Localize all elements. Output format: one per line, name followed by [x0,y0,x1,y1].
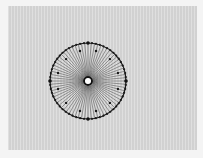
rim-dot [79,117,81,119]
rim-dot [54,99,56,101]
rim-dot [109,49,111,51]
rim-dot [51,92,53,94]
rim-dot [71,115,73,117]
rim-dot [115,105,117,107]
cardinal-marker [124,79,128,83]
rim-dot [75,116,77,118]
rim-dot [115,54,117,56]
rim-dot [118,102,120,104]
rim-dot [50,72,52,74]
inner-dot [117,72,119,74]
inner-dot [57,72,59,74]
rim-dot [120,99,122,101]
spoke [91,50,110,77]
spoke [91,85,110,112]
rim-dot [95,43,97,45]
rim-dot [83,42,85,44]
rim-dot [61,108,63,110]
rim-dot [61,52,63,54]
spoked-wheel [0,0,203,158]
spoke [57,59,84,78]
rim-dot [125,84,127,86]
cardinal-marker [48,79,52,83]
rim-dot [106,47,108,49]
rim-dot [91,42,93,44]
spoke [66,85,85,112]
rim-dot [102,115,104,117]
spoke [92,59,119,78]
rim-dot [59,54,61,56]
inner-dot [109,102,111,104]
hub-center [86,79,91,84]
inner-dot [79,110,81,112]
rim-dot [99,116,101,118]
rim-dot [52,64,54,66]
rim-dot [122,64,124,66]
rim-dot [112,52,114,54]
inner-dot [65,102,67,104]
rim-dot [125,76,127,78]
rim-dot [75,44,77,46]
rim-dot [68,113,70,115]
rim-dot [71,45,73,47]
rim-dot [50,88,52,90]
spoke [66,50,85,77]
spoke [92,84,119,103]
spoke [57,84,84,103]
rim-dot [95,117,97,119]
inner-dot [65,58,67,60]
inner-dot [117,88,119,90]
rim-dot [59,105,61,107]
rim-dot [122,95,124,97]
rim-dot [109,111,111,113]
cardinal-marker [86,117,90,121]
inner-dot [95,50,97,52]
rim-dot [79,43,81,45]
rim-dot [52,95,54,97]
rim-dot [51,68,53,70]
rim-dot [124,72,126,74]
rim-dot [56,102,58,104]
rim-dot [68,47,70,49]
cardinal-marker [86,41,90,45]
inner-dot [109,58,111,60]
inner-dot [95,110,97,112]
rim-dot [124,88,126,90]
rim-dot [49,84,51,86]
rim-dot [102,45,104,47]
rim-dot [123,68,125,70]
rim-dot [65,49,67,51]
rim-dot [83,118,85,120]
rim-dot [118,58,120,60]
rim-dot [65,111,67,113]
rim-dot [112,108,114,110]
rim-dot [49,76,51,78]
rim-dot [106,113,108,115]
rim-dot [120,61,122,63]
rim-dot [54,61,56,63]
inner-dot [79,50,81,52]
inner-dot [57,88,59,90]
rim-dot [91,118,93,120]
rim-dot [123,92,125,94]
rim-dot [99,44,101,46]
rim-dot [56,58,58,60]
